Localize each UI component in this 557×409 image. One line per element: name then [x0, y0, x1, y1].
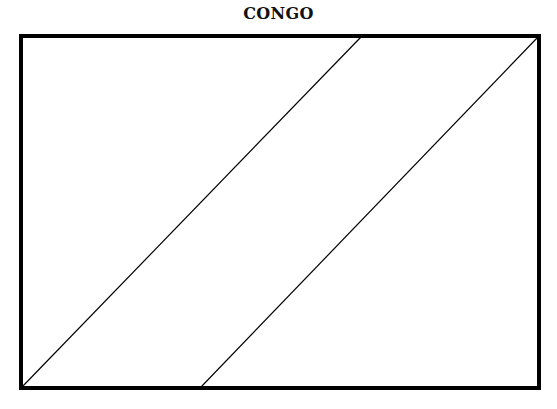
flag-outline-drawing — [0, 0, 557, 409]
flag-frame — [21, 36, 539, 388]
